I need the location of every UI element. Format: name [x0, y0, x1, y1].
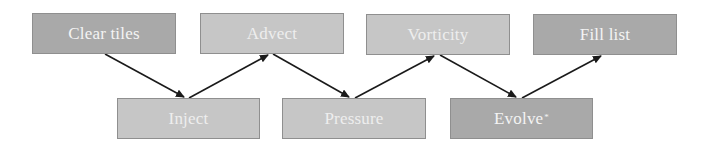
edge-vorticity-to-evolve	[440, 55, 516, 97]
node-advect: Advect	[200, 13, 344, 54]
node-clear-tiles: Clear tiles	[32, 13, 176, 54]
node-label: Inject	[169, 109, 209, 129]
edge-inject-to-advect	[189, 55, 268, 98]
edge-pressure-to-vorticity	[355, 56, 434, 98]
node-label: Pressure	[324, 109, 383, 129]
node-label: Vorticity	[408, 25, 469, 45]
node-inject: Inject	[117, 98, 260, 139]
node-pressure: Pressure	[282, 98, 426, 139]
node-evolve: Evolve*	[450, 98, 593, 139]
edge-evolve-to-fill-list	[522, 56, 601, 98]
node-label-suffix: *	[544, 112, 549, 122]
node-vorticity: Vorticity	[366, 14, 510, 55]
edge-advect-to-pressure	[273, 54, 349, 97]
edge-clear-tiles-to-inject	[105, 54, 184, 97]
node-label: Evolve	[494, 109, 543, 129]
pipeline-diagram: Clear tiles Advect Vorticity Fill list I…	[0, 0, 714, 146]
node-label: Clear tiles	[68, 24, 140, 44]
node-label: Fill list	[580, 25, 630, 45]
node-label: Advect	[247, 24, 297, 44]
node-fill-list: Fill list	[533, 14, 677, 55]
